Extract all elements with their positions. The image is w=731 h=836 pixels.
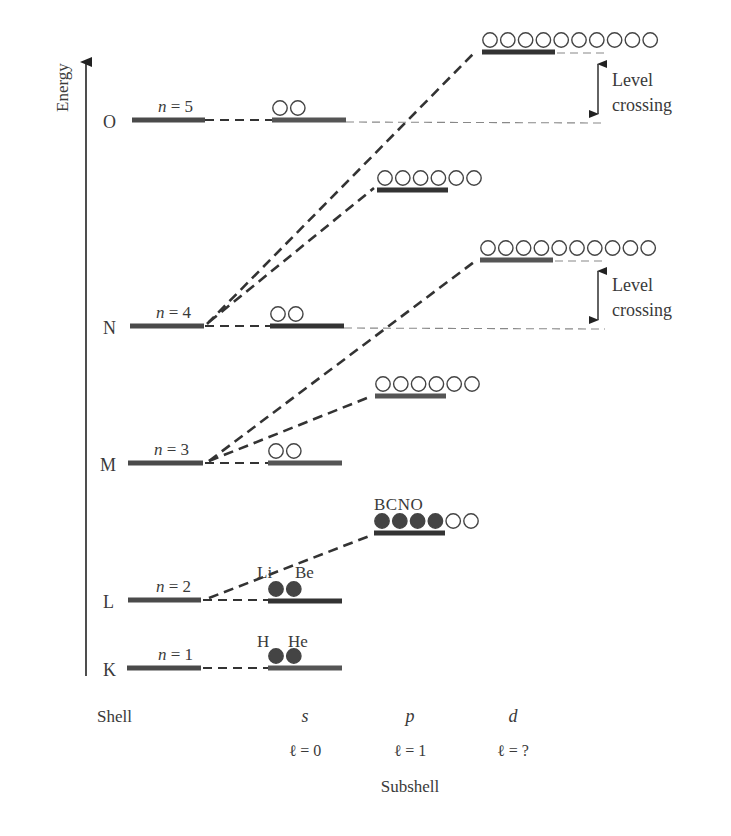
shell-n-label: n = 5 <box>158 97 193 116</box>
shell-n-label: n = 4 <box>156 303 192 322</box>
energy-axis-label: Energy <box>53 63 72 112</box>
shell-N: Nn = 4 <box>103 303 204 338</box>
level-crossing-label-line1: Level <box>612 70 653 90</box>
filled-electron-icon <box>393 514 407 528</box>
subshell-4s <box>270 307 344 329</box>
shell-level-bar <box>128 598 201 603</box>
shell-levels: On = 5Nn = 4Mn = 3Ln = 2Kn = 1 <box>100 97 205 680</box>
subshell-level-bar <box>480 258 553 263</box>
level-crossings: LevelcrossingLevelcrossing <box>598 64 672 320</box>
shell-level-bar <box>127 666 201 671</box>
shell-letter: L <box>103 592 114 612</box>
energy-axis: Energy <box>53 62 86 676</box>
empty-orbital-icon <box>499 241 513 255</box>
empty-orbital-icon <box>449 171 463 185</box>
subshell-level-bar <box>268 666 342 671</box>
element-label: Li <box>257 563 272 582</box>
shell-letter: O <box>103 112 116 132</box>
empty-orbital-icon <box>570 241 584 255</box>
subshell-level-bar <box>272 118 346 123</box>
empty-orbital-icon <box>413 171 427 185</box>
element-label: BCNO <box>374 495 423 514</box>
subshell-level-bar <box>375 394 446 399</box>
level-crossing: Levelcrossing <box>598 64 672 115</box>
empty-orbital-icon <box>588 241 602 255</box>
element-label: H <box>257 632 269 651</box>
empty-orbital-icon <box>607 33 621 47</box>
energy-level-diagram: Energy On = 5Nn = 4Mn = 3Ln = 2Kn = 1 Li… <box>0 0 731 836</box>
empty-orbital-icon <box>552 241 566 255</box>
empty-orbital-icon <box>287 444 301 458</box>
subshell-3p <box>375 377 479 399</box>
subshell-4p <box>377 171 481 193</box>
empty-orbital-icon <box>481 241 495 255</box>
subshell-letter: d <box>509 706 519 726</box>
subshell-4d <box>482 33 657 55</box>
empty-orbital-icon <box>625 33 639 47</box>
element-label: He <box>288 632 308 651</box>
filled-electron-icon <box>428 514 442 528</box>
empty-orbital-icon <box>623 241 637 255</box>
element-label: Be <box>295 563 314 582</box>
subshell-l-label: ℓ = 1 <box>394 742 427 759</box>
subshell-3s <box>268 444 342 466</box>
empty-orbital-icon <box>446 514 460 528</box>
shell-n-label: n = 2 <box>156 577 191 596</box>
empty-orbital-icon <box>501 33 515 47</box>
subshell-letter: p <box>404 706 415 726</box>
empty-orbital-icon <box>394 377 408 391</box>
empty-orbital-icon <box>643 33 657 47</box>
connector-thin-line <box>346 122 605 123</box>
filled-electron-icon <box>287 582 301 596</box>
subshell-2s <box>268 582 342 604</box>
empty-orbital-icon <box>464 514 478 528</box>
empty-orbital-icon <box>376 377 390 391</box>
empty-orbital-icon <box>289 307 303 321</box>
subshell-letter: s <box>301 706 308 726</box>
level-crossing-label-line2: crossing <box>612 300 672 320</box>
empty-orbital-icon <box>518 33 532 47</box>
empty-orbital-icon <box>572 33 586 47</box>
empty-orbital-icon <box>273 101 287 115</box>
empty-orbital-icon <box>271 307 285 321</box>
empty-orbital-icon <box>465 377 479 391</box>
empty-orbital-icon <box>291 101 305 115</box>
empty-orbital-icon <box>467 171 481 185</box>
empty-orbital-icon <box>536 33 550 47</box>
filled-electron-icon <box>269 649 283 663</box>
shell-letter: K <box>103 660 116 680</box>
shell-letter: N <box>103 318 116 338</box>
filled-electron-icon <box>375 514 389 528</box>
shell-level-bar <box>132 118 205 123</box>
shell-K: Kn = 1 <box>103 645 201 680</box>
subshell-level-bar <box>270 324 344 329</box>
empty-orbital-icon <box>641 241 655 255</box>
connector-thin-line <box>344 328 605 329</box>
empty-orbital-icon <box>483 33 497 47</box>
subshell-axis-label: Subshell <box>381 777 440 796</box>
filled-electron-icon <box>410 514 424 528</box>
subshell-l-label: ℓ = 0 <box>289 742 322 759</box>
empty-orbital-icon <box>554 33 568 47</box>
empty-orbital-icon <box>411 377 425 391</box>
shell-n-label: n = 3 <box>154 440 189 459</box>
subshell-level-bar <box>268 599 342 604</box>
empty-orbital-icon <box>605 241 619 255</box>
subshell-level-bar <box>482 50 555 55</box>
empty-orbital-icon <box>447 377 461 391</box>
empty-orbital-icon <box>516 241 530 255</box>
shell-letter: M <box>100 455 116 475</box>
shell-n-label: n = 1 <box>158 645 193 664</box>
shell-level-bar <box>128 461 203 466</box>
bottom-labels: Shellsℓ = 0pℓ = 1dℓ = ?Subshell <box>97 706 529 796</box>
subshell-3d <box>480 241 655 263</box>
shell-axis-label: Shell <box>97 707 132 726</box>
subshell-levels <box>268 33 657 671</box>
shell-M: Mn = 3 <box>100 440 203 475</box>
empty-orbital-icon <box>429 377 443 391</box>
subshell-5s <box>272 101 346 123</box>
empty-orbital-icon <box>269 444 283 458</box>
subshell-1s <box>268 649 342 671</box>
shell-O: On = 5 <box>103 97 205 132</box>
subshell-l-label: ℓ = ? <box>497 742 529 759</box>
